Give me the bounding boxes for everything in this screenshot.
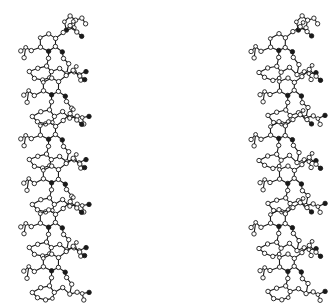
atom xyxy=(279,158,283,162)
atom xyxy=(82,298,86,302)
atom xyxy=(297,62,301,66)
atom xyxy=(64,275,68,279)
atom xyxy=(300,14,304,18)
atom xyxy=(47,196,51,200)
atom xyxy=(43,298,47,302)
atom xyxy=(249,137,253,141)
atom xyxy=(64,187,68,191)
atom xyxy=(316,205,320,209)
atom xyxy=(46,137,50,141)
atom xyxy=(44,64,48,68)
atom xyxy=(277,265,281,269)
atom xyxy=(292,256,296,260)
atom xyxy=(49,188,53,192)
atom xyxy=(32,269,36,273)
atom xyxy=(307,72,311,76)
atom xyxy=(78,74,82,78)
atom xyxy=(32,164,36,168)
atom xyxy=(56,89,60,93)
atom xyxy=(299,94,303,98)
atom xyxy=(311,114,315,118)
atom xyxy=(27,265,31,269)
atom xyxy=(46,225,50,229)
atom xyxy=(300,250,304,254)
atom xyxy=(46,49,50,53)
atom xyxy=(46,144,50,148)
atom xyxy=(262,163,266,167)
atom xyxy=(64,249,68,253)
atom xyxy=(53,212,57,216)
atom xyxy=(286,76,290,80)
atom xyxy=(35,296,39,300)
atom xyxy=(311,202,315,206)
atom xyxy=(39,198,43,202)
atom xyxy=(83,22,87,26)
atom xyxy=(278,256,282,260)
atom xyxy=(277,224,281,228)
atom xyxy=(61,285,65,289)
atom xyxy=(24,134,28,138)
atom xyxy=(295,20,299,24)
atom xyxy=(25,276,29,280)
atom xyxy=(27,245,31,249)
atom xyxy=(291,143,295,147)
atom xyxy=(84,69,88,73)
atom xyxy=(268,37,272,41)
atom xyxy=(305,18,309,22)
atom xyxy=(286,164,290,168)
atom xyxy=(259,137,263,141)
atom xyxy=(300,101,304,105)
atom xyxy=(22,56,26,60)
atom xyxy=(71,156,75,160)
atom xyxy=(305,117,309,121)
atom xyxy=(277,208,281,212)
atom xyxy=(304,291,308,295)
atom xyxy=(305,29,309,33)
atom xyxy=(78,250,82,254)
atom xyxy=(41,256,45,260)
atom xyxy=(309,122,313,126)
atom xyxy=(24,46,28,50)
atom xyxy=(46,232,50,236)
atom xyxy=(297,150,301,154)
atom xyxy=(29,136,33,140)
atom xyxy=(268,268,272,272)
atom xyxy=(80,116,84,120)
atom xyxy=(266,154,270,158)
atom xyxy=(75,290,79,294)
atom xyxy=(49,245,53,249)
atom xyxy=(30,114,34,118)
atom xyxy=(323,201,327,205)
atom xyxy=(271,78,275,82)
atom xyxy=(277,80,281,84)
atom xyxy=(277,136,281,140)
atom xyxy=(261,276,265,280)
atom xyxy=(277,89,281,93)
atom xyxy=(71,196,75,200)
atom xyxy=(310,240,314,244)
atom xyxy=(49,69,53,73)
atom xyxy=(68,14,72,18)
atom xyxy=(64,73,68,77)
atom xyxy=(49,100,53,104)
atom xyxy=(310,64,314,68)
atom xyxy=(63,182,67,186)
atom xyxy=(19,225,23,229)
atom xyxy=(262,251,266,255)
atom xyxy=(29,224,33,228)
atom xyxy=(25,188,29,192)
atom xyxy=(75,241,79,245)
atom xyxy=(27,177,31,181)
atom xyxy=(22,269,26,273)
atom xyxy=(67,150,71,154)
atom xyxy=(301,21,305,25)
atom xyxy=(53,124,57,128)
atom xyxy=(52,290,56,294)
atom xyxy=(279,246,283,250)
atom xyxy=(295,248,299,252)
atom xyxy=(271,296,275,300)
atom xyxy=(283,221,287,225)
atom xyxy=(287,153,291,157)
atom xyxy=(298,201,302,205)
atom xyxy=(286,252,290,256)
